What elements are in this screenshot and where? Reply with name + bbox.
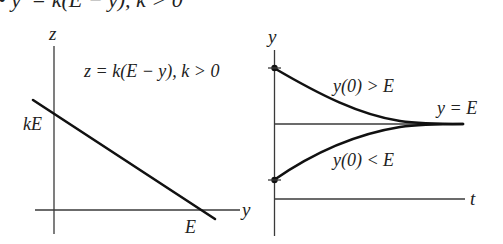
equilibrium-label: y = E [435, 98, 477, 118]
figure: • y′ = k(E − y), k > 0 z y z = k(E − y),… [0, 0, 503, 244]
time-axis-label: t [470, 188, 476, 209]
upper-curve-label: y(0) > E [331, 76, 394, 97]
lower-curve-label: y(0) < E [331, 150, 394, 171]
equation-label: z = k(E − y), k > 0 [83, 61, 219, 82]
right-plot: y t y(0) > E y = E y(0) < E [266, 26, 477, 236]
root-label: E [184, 217, 196, 237]
header-equation: • y′ = k(E − y), k > 0 [0, 0, 183, 12]
left-horizontal-axis-label: y [240, 199, 251, 220]
right-vertical-axis-label: y [266, 26, 277, 47]
intercept-label: kE [23, 114, 42, 134]
left-plot: z y z = k(E − y), k > 0 kE E [23, 23, 251, 237]
left-vertical-axis-label: z [48, 23, 57, 44]
linear-function-line [33, 100, 215, 219]
